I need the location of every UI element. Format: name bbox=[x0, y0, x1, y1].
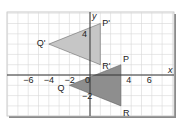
y-axis-label: y bbox=[91, 11, 97, 21]
x-tick-label: 4 bbox=[126, 75, 131, 85]
vertex-label: Q bbox=[57, 83, 64, 93]
vertex-label: Q' bbox=[37, 38, 46, 48]
x-tick-label: −4 bbox=[44, 75, 54, 85]
vertex-label: P' bbox=[102, 18, 110, 28]
vertex-label: R bbox=[123, 108, 130, 118]
x-tick-label: −6 bbox=[23, 75, 33, 85]
x-axis-label: x bbox=[167, 65, 173, 75]
x-tick-label: 6 bbox=[147, 75, 152, 85]
x-tick-label: −2 bbox=[64, 75, 74, 85]
x-tick-label: 0 bbox=[85, 75, 90, 85]
vertex-label: R' bbox=[102, 61, 110, 71]
coordinate-grid-chart: PQRP'Q'R'−6−4−20464−2xy bbox=[0, 0, 179, 124]
vertex-label: P bbox=[123, 54, 129, 64]
y-tick-label: 4 bbox=[82, 29, 87, 39]
y-tick-label: −2 bbox=[82, 91, 92, 101]
